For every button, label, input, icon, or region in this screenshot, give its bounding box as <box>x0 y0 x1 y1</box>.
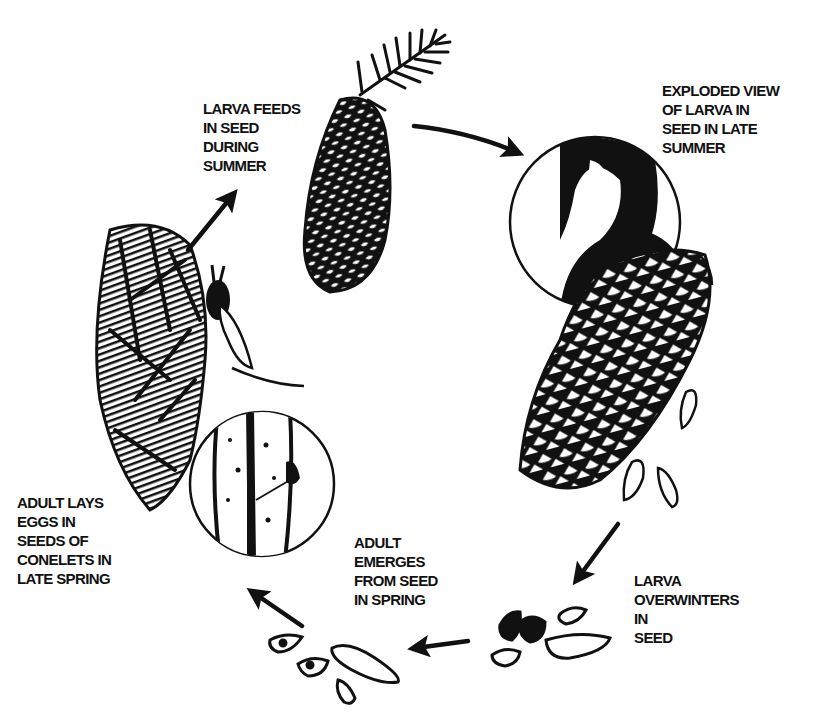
label-line: LARVA <box>634 571 739 590</box>
empty-seeds-emergence-holes <box>270 635 399 703</box>
label-larva-feeds: LARVA FEEDS IN SEED DURING SUMMER <box>203 99 300 175</box>
arrow-conelet-to-cone <box>188 196 232 250</box>
label-line: EGGS IN <box>17 512 111 531</box>
label-line: OF LARVA IN <box>662 100 779 119</box>
label-exploded-view: EXPLODED VIEW OF LARVA IN SEED IN LATE S… <box>662 81 779 157</box>
arrow-emergence-to-conelet <box>254 593 302 626</box>
label-line: SUMMER <box>203 156 300 175</box>
label-adult-emerges: ADULT EMERGES FROM SEED IN SPRING <box>354 533 438 609</box>
label-line: ADULT <box>354 533 438 552</box>
magnified-ovipositor <box>190 408 334 561</box>
arrow-cone-to-exploded <box>414 126 516 152</box>
label-line: DURING <box>203 137 300 156</box>
label-line: LARVA FEEDS <box>203 99 300 118</box>
label-line: IN <box>634 609 739 628</box>
label-line: EXPLODED VIEW <box>662 81 779 100</box>
label-line: LATE SPRING <box>17 569 111 588</box>
label-adult-lays-eggs: ADULT LAYS EGGS IN SEEDS OF CONELETS IN … <box>17 493 111 588</box>
label-line: SEED IN LATE <box>662 119 779 138</box>
label-larva-overwinters: LARVA OVERWINTERS IN SEED <box>634 571 739 647</box>
arrow-seeds-to-emergence <box>416 641 468 648</box>
label-line: SEED <box>634 628 739 647</box>
arrow-cone-to-seeds <box>578 524 618 578</box>
label-line: IN SPRING <box>354 590 438 609</box>
adult-insect <box>206 265 304 386</box>
label-line: FROM SEED <box>354 571 438 590</box>
seeds-with-larvae <box>492 608 610 666</box>
label-line: OVERWINTERS <box>634 590 739 609</box>
label-line: CONELETS IN <box>17 550 111 569</box>
label-line: SEEDS OF <box>17 531 111 550</box>
label-line: IN SEED <box>203 118 300 137</box>
label-line: SUMMER <box>662 138 779 157</box>
label-line: EMERGES <box>354 552 438 571</box>
label-line: ADULT LAYS <box>17 493 111 512</box>
spruce-cone-with-shoot <box>304 30 450 292</box>
